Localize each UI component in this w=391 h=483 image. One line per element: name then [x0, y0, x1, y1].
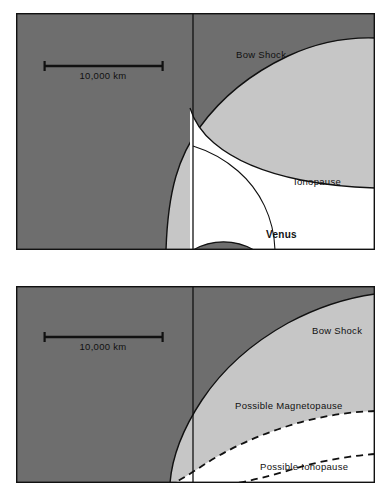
venus-solar-wind-figure: 10,000 km Bow Shock Ionopause Venus	[0, 0, 391, 483]
scale-bar-label: 10,000 km	[79, 341, 126, 352]
label-bow-shock: Bow Shock	[236, 49, 286, 60]
label-possible-magnetopause: Possible Magnetopause	[235, 400, 343, 411]
label-ionopause: Ionopause	[294, 176, 341, 187]
label-possible-ionopause: Possible Ionopause	[260, 461, 348, 472]
panel-induced-magnetosphere: 10,000 km Bow Shock Ionopause Venus	[16, 13, 375, 250]
scale-bar-label: 10,000 km	[79, 70, 126, 81]
label-bow-shock: Bow Shock	[312, 325, 362, 336]
label-venus: Venus	[266, 229, 297, 240]
panel-possible-magnetosphere: 10,000 km Bow Shock Possible Magnetopaus…	[16, 286, 375, 483]
